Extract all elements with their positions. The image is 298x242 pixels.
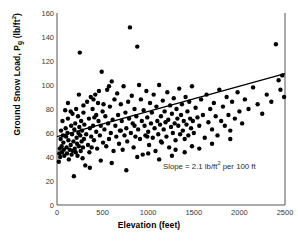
data-point [132, 124, 136, 128]
data-point [181, 128, 185, 132]
data-point [90, 107, 94, 111]
data-point [182, 137, 186, 141]
data-point [75, 154, 79, 158]
data-point [155, 119, 159, 123]
data-point [221, 104, 225, 108]
data-point [125, 139, 129, 143]
data-point [66, 138, 70, 142]
slope-annotation: Slope = 2.1 lb/ft2 per 100 ft [163, 160, 256, 171]
data-point [173, 138, 177, 142]
data-point [89, 145, 93, 149]
data-point [240, 121, 244, 125]
data-point [87, 150, 91, 154]
data-point [162, 109, 166, 113]
data-point [81, 110, 85, 114]
data-point [135, 44, 139, 48]
data-point [185, 109, 189, 113]
data-point [96, 101, 100, 105]
data-point [119, 102, 123, 106]
data-point [158, 122, 162, 126]
data-point [260, 112, 264, 116]
data-point [179, 113, 183, 117]
data-point [97, 89, 101, 93]
data-point [210, 127, 214, 131]
data-point [119, 128, 123, 132]
data-point [233, 116, 237, 120]
slope-annotation-suffix: per 100 ft [221, 162, 256, 171]
data-point [130, 94, 134, 98]
data-point [274, 42, 278, 46]
data-point [190, 84, 194, 88]
data-point [116, 113, 120, 117]
data-point [269, 100, 273, 104]
data-point [182, 150, 186, 154]
data-point [133, 134, 137, 138]
data-point [101, 140, 105, 144]
data-point [65, 151, 69, 155]
data-point [87, 116, 91, 120]
data-point [72, 174, 76, 178]
data-point [169, 125, 173, 129]
data-point [172, 121, 176, 125]
data-point [58, 155, 62, 159]
data-point [99, 158, 103, 162]
data-point [63, 108, 67, 112]
data-point [63, 126, 67, 130]
data-point [157, 157, 161, 161]
data-point [88, 166, 92, 170]
scatter-points [57, 25, 287, 178]
data-point [115, 91, 119, 95]
data-point [100, 109, 104, 113]
data-point [228, 128, 232, 132]
data-point [175, 116, 179, 120]
data-point [57, 160, 61, 164]
data-point [210, 142, 214, 146]
data-point [80, 156, 84, 160]
data-point [99, 70, 103, 74]
data-point [146, 130, 150, 134]
x-tick-1500: 1500 [174, 208, 214, 217]
data-point [184, 122, 188, 126]
data-point [60, 119, 64, 123]
data-point [141, 152, 145, 156]
data-point [110, 79, 114, 83]
data-point [161, 98, 165, 102]
data-point [103, 114, 107, 118]
data-point [170, 112, 174, 116]
data-point [192, 131, 196, 135]
data-point [121, 84, 125, 88]
data-point [128, 25, 132, 29]
data-point [189, 126, 193, 130]
data-point [183, 95, 187, 99]
data-point [228, 137, 232, 141]
data-point [79, 119, 83, 123]
data-point [74, 136, 78, 140]
data-point [191, 119, 195, 123]
data-point [137, 83, 141, 87]
data-point [153, 149, 157, 153]
data-point [282, 95, 286, 99]
data-point [145, 115, 149, 119]
data-point [136, 127, 140, 131]
data-point [140, 119, 144, 123]
data-point [96, 119, 100, 123]
data-point [171, 131, 175, 135]
data-point [129, 131, 133, 135]
data-point [151, 92, 155, 96]
x-tick-500: 500 [83, 208, 123, 217]
data-point [167, 145, 171, 149]
data-point [77, 125, 81, 129]
data-point [166, 118, 170, 122]
data-point [230, 100, 234, 104]
data-point [223, 124, 227, 128]
x-tick-2500: 2500 [265, 208, 298, 217]
slope-annotation-prefix: Slope = 2.1 lb/ft [163, 162, 217, 171]
data-point [77, 144, 81, 148]
data-point [123, 110, 127, 114]
data-point [197, 124, 201, 128]
data-point [109, 131, 113, 135]
data-point [92, 138, 96, 142]
data-point [71, 139, 75, 143]
data-point [66, 116, 70, 120]
data-point [85, 100, 89, 104]
